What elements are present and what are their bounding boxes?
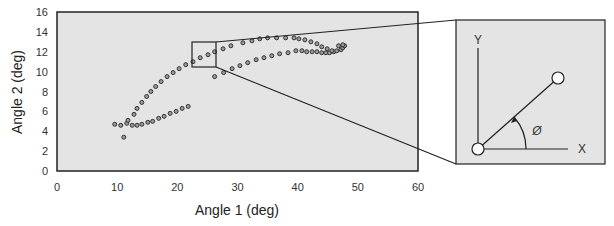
data-point [262,56,266,60]
data-point [297,37,301,41]
data-point [186,104,190,108]
chart-figure: 0246810121416 0102030405060 Angle 1 (deg… [0,0,614,226]
x-tick-label: 10 [111,181,123,193]
data-point [230,67,234,71]
data-point [254,58,258,62]
data-point [162,114,166,118]
x-axis-ticks: 0102030405060 [54,181,424,193]
y-axis-label: Angle 2 (deg) [9,50,25,134]
y-tick-label: 8 [42,86,48,98]
data-point [278,52,282,56]
data-point [292,36,296,40]
data-point [119,123,123,127]
data-point [341,43,345,47]
y-tick-label: 10 [36,66,48,78]
data-point [198,56,202,60]
y-tick-label: 4 [42,125,48,137]
data-point [238,64,242,68]
data-point [213,75,217,79]
data-point [157,116,161,120]
data-point [315,42,319,46]
data-point [135,106,139,110]
y-tick-label: 0 [42,165,48,177]
y-tick-label: 2 [42,145,48,157]
data-point [206,53,210,57]
data-point [174,109,178,113]
data-point [180,106,184,110]
x-tick-label: 40 [292,181,304,193]
data-point [149,90,153,94]
data-point [309,40,313,44]
data-point [284,36,288,40]
data-point [335,49,339,53]
data-point [330,49,334,53]
inset-x-label: X [578,142,586,156]
data-point [165,75,169,79]
data-point [151,119,155,123]
data-point [320,51,324,55]
origin-joint-icon [472,143,484,155]
data-point [286,51,290,55]
data-point [122,135,126,139]
data-point [130,123,134,127]
plot-area [57,12,418,171]
y-tick-label: 14 [36,26,48,38]
data-point [132,112,136,116]
data-point [246,61,250,65]
data-point [113,122,117,126]
data-point [140,122,144,126]
data-point [241,41,245,45]
inset-y-label: Y [474,33,482,47]
data-point [294,49,298,53]
data-point [270,54,274,58]
data-point [337,44,341,48]
data-point [135,123,139,127]
y-tick-label: 6 [42,105,48,117]
data-point [145,94,149,98]
data-point [171,71,175,75]
data-point [303,38,307,42]
y-tick-label: 16 [36,6,48,18]
data-point [300,49,304,53]
y-tick-label: 12 [36,46,48,58]
angle-label: Ø [531,124,542,138]
x-tick-label: 0 [54,181,60,193]
x-tick-label: 30 [231,181,243,193]
data-point [310,50,314,54]
data-point [159,80,163,84]
data-point [177,67,181,71]
x-tick-label: 60 [412,181,424,193]
data-point [168,111,172,115]
y-axis-ticks: 0246810121416 [36,6,48,177]
x-tick-label: 50 [352,181,364,193]
data-point [325,47,329,51]
data-point [126,118,130,122]
data-point [229,44,233,48]
data-point [154,85,158,89]
x-axis-label: Angle 1 (deg) [195,202,279,218]
data-point [146,120,150,124]
end-joint-icon [552,72,564,84]
data-point [184,63,188,67]
data-point [315,50,319,54]
x-tick-label: 20 [171,181,183,193]
data-point [305,50,309,54]
data-point [221,47,225,51]
data-point [320,45,324,49]
data-point [140,100,144,104]
